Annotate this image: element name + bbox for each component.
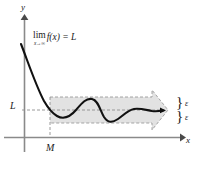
- y-axis-label: y: [21, 3, 25, 12]
- asymptote-value-label: L: [10, 101, 16, 111]
- lower-epsilon-brace: }: [176, 109, 183, 124]
- lower-epsilon-label: ε: [185, 114, 188, 122]
- limit-subscript: x→∞: [33, 41, 46, 46]
- limit-diagram-figure: y x L M lim x→∞ f(x) = L } ε } ε: [0, 0, 198, 169]
- diagram-canvas: [0, 0, 198, 169]
- limit-body: f(x) = L: [47, 32, 77, 42]
- limit-operator-stack: lim x→∞: [33, 31, 46, 46]
- upper-epsilon-label: ε: [185, 100, 188, 108]
- y-axis-arrowhead: [21, 14, 29, 20]
- x-axis-label: x: [186, 136, 190, 145]
- threshold-value-label: M: [46, 143, 54, 153]
- limit-expression: lim x→∞ f(x) = L: [33, 31, 76, 46]
